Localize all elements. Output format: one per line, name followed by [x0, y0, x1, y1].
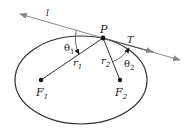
- focus-F1: [39, 78, 43, 82]
- tangent-line-l: [20, 14, 103, 38]
- focus-F2: [118, 78, 122, 82]
- label-F2: F2: [114, 86, 128, 101]
- label-theta2: θ2: [124, 58, 135, 72]
- segment-r1: [41, 38, 103, 80]
- label-r2: r2: [101, 55, 111, 69]
- label-r1: r1: [73, 57, 82, 71]
- ellipse-curve: [15, 36, 147, 124]
- ellipse-reflection-diagram: P l T θ1 θ2 r1 r2 F1 F2: [0, 0, 185, 129]
- label-T: T: [127, 34, 135, 45]
- label-l: l: [46, 8, 49, 18]
- label-theta1: θ1: [64, 42, 75, 56]
- label-P: P: [99, 23, 108, 36]
- label-F1: F1: [35, 86, 48, 101]
- point-P: [101, 36, 106, 41]
- angle-theta1-arc: [75, 31, 79, 54]
